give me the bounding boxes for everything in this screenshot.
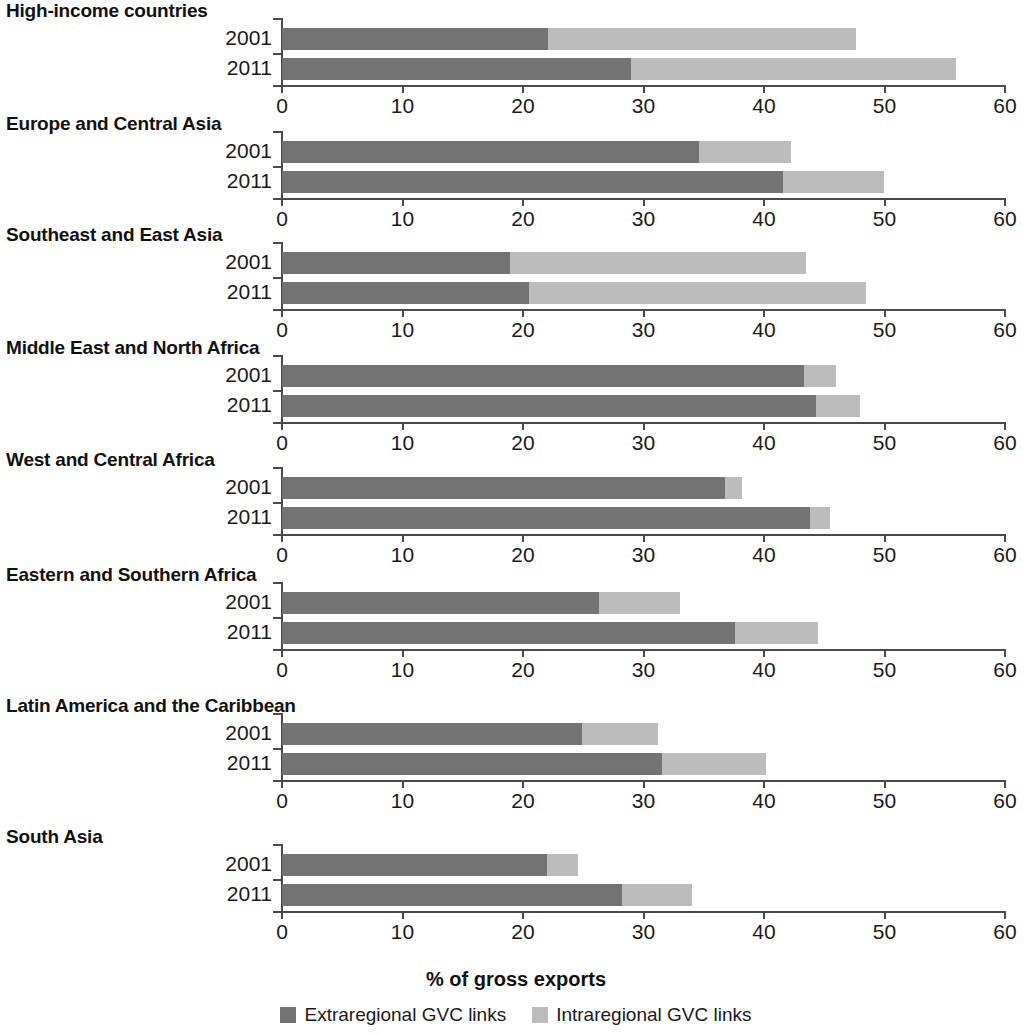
legend-label-extraregional: Extraregional GVC links — [304, 1004, 506, 1026]
x-axis-tick — [281, 85, 283, 93]
bar-segment-extraregional[interactable] — [282, 141, 699, 163]
y-axis-tick — [273, 277, 282, 279]
bar-segment-extraregional[interactable] — [282, 395, 816, 417]
bar-segment-intraregional[interactable] — [548, 28, 855, 50]
x-axis-tick — [281, 649, 283, 657]
bar-row[interactable] — [282, 507, 830, 529]
x-axis-tick — [281, 198, 283, 206]
plot-area: 200120110102030405060 — [282, 564, 1005, 676]
x-axis-tick-label: 0 — [276, 789, 288, 813]
plot-area: 200120110102030405060 — [282, 337, 1005, 449]
x-axis-tick — [522, 780, 524, 788]
x-axis-tick-label: 40 — [752, 920, 775, 944]
x-axis-tick — [402, 309, 404, 317]
x-axis-tick-label: 60 — [993, 658, 1016, 682]
year-label: 2001 — [210, 590, 272, 614]
bar-segment-extraregional[interactable] — [282, 723, 582, 745]
bar-segment-extraregional[interactable] — [282, 282, 529, 304]
y-axis-tick — [273, 53, 282, 55]
x-axis-tick-label: 50 — [873, 658, 896, 682]
bar-segment-intraregional[interactable] — [804, 365, 837, 387]
bar-segment-intraregional[interactable] — [547, 854, 578, 876]
legend-item-extraregional: Extraregional GVC links — [280, 1004, 506, 1026]
bar-row[interactable] — [282, 252, 806, 274]
panel-title: West and Central Africa — [6, 449, 215, 471]
year-label: 2011 — [210, 620, 272, 644]
bar-row[interactable] — [282, 753, 766, 775]
x-axis-tick — [643, 198, 645, 206]
bar-row[interactable] — [282, 282, 866, 304]
bar-segment-extraregional[interactable] — [282, 592, 599, 614]
x-axis-tick — [884, 780, 886, 788]
legend-swatch-extraregional-icon — [280, 1007, 296, 1023]
x-axis-tick — [402, 534, 404, 542]
panel-title: Southeast and East Asia — [6, 224, 222, 246]
panel-title: Latin America and the Caribbean — [6, 695, 296, 717]
bar-row[interactable] — [282, 395, 860, 417]
y-axis-tick — [273, 242, 282, 244]
x-axis-tick-label: 20 — [511, 658, 534, 682]
x-axis-tick — [1004, 422, 1006, 430]
bar-segment-intraregional[interactable] — [783, 171, 884, 193]
x-axis-tick — [763, 422, 765, 430]
x-axis-tick-label: 0 — [276, 658, 288, 682]
y-axis-tick — [273, 748, 282, 750]
x-axis-tick — [643, 309, 645, 317]
bar-row[interactable] — [282, 723, 658, 745]
x-axis-tick — [763, 198, 765, 206]
bar-segment-intraregional[interactable] — [529, 282, 866, 304]
bar-segment-extraregional[interactable] — [282, 507, 810, 529]
bar-segment-extraregional[interactable] — [282, 477, 725, 499]
bar-segment-extraregional[interactable] — [282, 753, 662, 775]
bar-segment-intraregional[interactable] — [599, 592, 680, 614]
bar-row[interactable] — [282, 141, 791, 163]
bar-segment-extraregional[interactable] — [282, 622, 735, 644]
x-axis-tick-label: 40 — [752, 658, 775, 682]
bar-segment-intraregional[interactable] — [725, 477, 742, 499]
bar-segment-extraregional[interactable] — [282, 884, 622, 906]
bar-segment-extraregional[interactable] — [282, 854, 547, 876]
x-axis-tick-label: 20 — [511, 789, 534, 813]
bar-segment-intraregional[interactable] — [699, 141, 791, 163]
chart-panel: Europe and Central Asia20012011010203040… — [0, 113, 1032, 225]
bar-segment-intraregional[interactable] — [816, 395, 861, 417]
bar-segment-intraregional[interactable] — [582, 723, 658, 745]
bar-segment-intraregional[interactable] — [735, 622, 818, 644]
x-axis-tick-label: 10 — [391, 789, 414, 813]
bar-segment-intraregional[interactable] — [810, 507, 830, 529]
x-axis-tick — [884, 198, 886, 206]
bar-segment-extraregional[interactable] — [282, 171, 783, 193]
x-axis-tick — [643, 911, 645, 919]
x-axis-tick — [643, 780, 645, 788]
bar-row[interactable] — [282, 477, 742, 499]
chart-panel: High-income countries2001201101020304050… — [0, 0, 1032, 112]
bar-segment-intraregional[interactable] — [510, 252, 806, 274]
bar-row[interactable] — [282, 884, 692, 906]
x-axis-tick — [763, 309, 765, 317]
legend-label-intraregional: Intraregional GVC links — [556, 1004, 751, 1026]
bar-segment-intraregional[interactable] — [622, 884, 692, 906]
x-axis-tick — [643, 534, 645, 542]
bar-row[interactable] — [282, 171, 885, 193]
year-label: 2001 — [210, 26, 272, 50]
y-axis-tick — [273, 502, 282, 504]
bar-segment-intraregional[interactable] — [662, 753, 767, 775]
bar-row[interactable] — [282, 854, 578, 876]
bar-segment-extraregional[interactable] — [282, 365, 804, 387]
year-label: 2001 — [210, 250, 272, 274]
year-label: 2001 — [210, 475, 272, 499]
bar-segment-extraregional[interactable] — [282, 28, 548, 50]
bar-segment-intraregional[interactable] — [631, 58, 955, 80]
x-axis-tick-label: 60 — [993, 789, 1016, 813]
x-axis-tick-label: 60 — [993, 920, 1016, 944]
y-axis-tick — [273, 582, 282, 584]
x-axis-tick — [402, 422, 404, 430]
bar-row[interactable] — [282, 28, 856, 50]
bar-segment-extraregional[interactable] — [282, 252, 510, 274]
bar-row[interactable] — [282, 58, 956, 80]
year-label: 2011 — [210, 505, 272, 529]
bar-segment-extraregional[interactable] — [282, 58, 631, 80]
bar-row[interactable] — [282, 592, 680, 614]
bar-row[interactable] — [282, 622, 818, 644]
bar-row[interactable] — [282, 365, 836, 387]
